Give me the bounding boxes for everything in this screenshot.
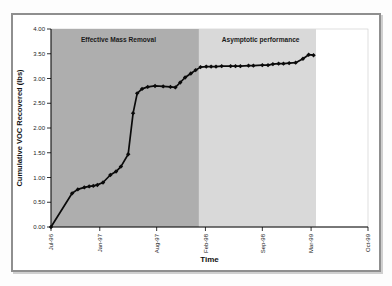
region-band-1 — [199, 29, 316, 227]
y-tick-label: 1.00 — [33, 175, 45, 181]
y-tick-label: 4.00 — [33, 26, 45, 32]
y-tick-label: 1.50 — [33, 150, 45, 156]
x-tick-label: Jan-97 — [97, 233, 103, 252]
y-tick-label: 3.50 — [33, 51, 45, 57]
voc-recovery-chart: Effective Mass RemovalAsymptotic perform… — [13, 15, 379, 270]
figure-frame: Effective Mass RemovalAsymptotic perform… — [11, 13, 381, 272]
x-tick-label: Sep-98 — [260, 233, 266, 253]
region-label-1: Asymptotic performance — [222, 36, 300, 44]
y-tick-label: 3.00 — [33, 76, 45, 82]
x-tick-label: Aug-97 — [154, 233, 160, 253]
region-label-0: Effective Mass Removal — [81, 36, 156, 43]
y-tick-label: 2.50 — [33, 100, 45, 106]
x-tick-label: Mar-99 — [308, 233, 314, 253]
x-tick-label: Feb-98 — [203, 233, 209, 253]
y-axis-title: Cumulative VOC Recovered (lbs) — [15, 69, 24, 187]
region-band-0 — [51, 29, 199, 227]
x-tick-label: Oct-99 — [365, 233, 371, 252]
x-axis-title: Time — [200, 255, 219, 264]
y-tick-label: 0.00 — [33, 224, 45, 230]
y-tick-label: 2.00 — [33, 125, 45, 131]
x-tick-label: Jul-96 — [48, 233, 54, 250]
y-tick-label: 0.50 — [33, 199, 45, 205]
